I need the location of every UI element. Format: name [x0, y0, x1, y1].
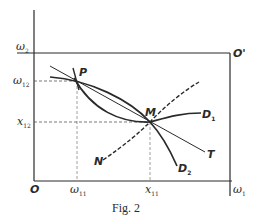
label-origin-prime: O' — [233, 47, 246, 60]
label-omega11: ω11 — [70, 183, 87, 197]
figure-caption: Fig. 2 — [112, 201, 140, 215]
label-origin: O — [30, 183, 39, 196]
label-x11: x11 — [145, 183, 159, 197]
label-omega1: ω1 — [233, 183, 246, 197]
label-x12: x12 — [17, 115, 31, 129]
label-line-t: T — [207, 148, 216, 161]
label-point-p: P — [79, 66, 87, 79]
curve-n — [103, 82, 199, 160]
label-curve-d2: D2 — [178, 162, 191, 176]
line-t — [50, 66, 205, 152]
label-curve-d1: D1 — [202, 108, 215, 122]
edgeworth-box-diagram: ω2 ω12 x12 O ω11 x11 ω1 O' P M N T D1 D2… — [0, 0, 259, 222]
label-curve-n: N — [94, 155, 103, 168]
label-omega2: ω2 — [16, 40, 29, 54]
curve-d1 — [74, 78, 201, 122]
label-omega12: ω12 — [13, 74, 30, 88]
label-point-m: M — [145, 106, 156, 119]
